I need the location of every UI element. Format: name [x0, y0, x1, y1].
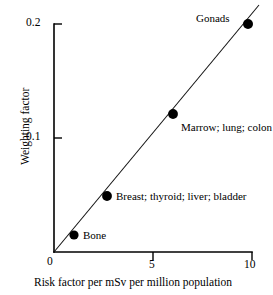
plot-area [0, 0, 273, 295]
point-label-bone: Bone [83, 230, 106, 241]
y-tick-label-upper: 0.2 [26, 17, 40, 29]
data-point-gonads [243, 19, 253, 29]
y-axis-title: Weighting factor [20, 88, 32, 165]
point-label-breast: Breast; thyroid; liver; bladder [116, 191, 246, 202]
data-point-breast [102, 191, 112, 201]
point-label-gonads: Gonads [196, 13, 230, 24]
chart-figure: 0.2 0.1 0 5 10 Weighting factor Risk fac… [0, 0, 273, 295]
x-tick-label-5: 5 [149, 259, 155, 271]
data-point-bone [69, 230, 78, 239]
x-axis-title: Risk factor per mSv per million populati… [34, 277, 232, 289]
x-tick-label-0: 0 [47, 256, 53, 268]
x-tick-label-10: 10 [244, 259, 256, 271]
point-label-marrow: Marrow; lung; colon [181, 122, 272, 133]
data-point-marrow [168, 109, 178, 119]
